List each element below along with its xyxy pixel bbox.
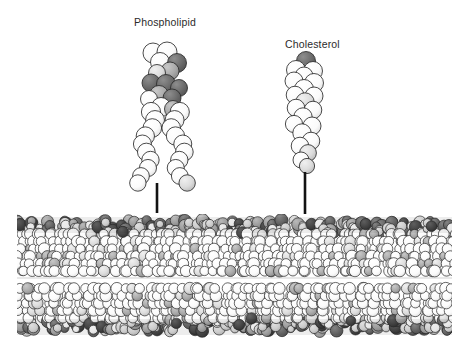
- cholesterol-label: Cholesterol: [285, 38, 340, 50]
- molecular-diagram-svg: [0, 0, 466, 354]
- phospholipid-molecule: [130, 42, 196, 191]
- cholesterol-molecule: [285, 52, 324, 174]
- phospholipid-label: Phospholipid: [134, 16, 196, 28]
- membrane-figure: Phospholipid Cholesterol: [0, 0, 466, 354]
- bilayer-membrane: [10, 214, 461, 338]
